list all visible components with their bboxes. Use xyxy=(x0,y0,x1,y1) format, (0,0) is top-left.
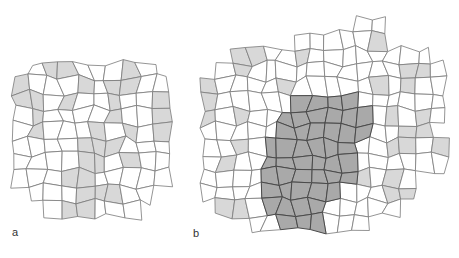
cell-dark xyxy=(296,214,312,229)
cell-white xyxy=(343,46,357,67)
cell-light xyxy=(385,106,399,127)
cell-light xyxy=(398,137,416,154)
cell-dark xyxy=(338,153,358,173)
cell-white xyxy=(431,95,445,109)
cell-light xyxy=(215,198,235,219)
cell-light xyxy=(152,108,172,124)
cell-white xyxy=(294,33,310,51)
cell-white xyxy=(430,76,447,96)
cell-light xyxy=(399,189,417,200)
cell-tissue-figure xyxy=(0,0,459,258)
cell-white xyxy=(233,170,252,187)
cell-light xyxy=(153,122,173,142)
cell-light xyxy=(62,201,78,220)
cell-white xyxy=(352,215,370,231)
cell-white xyxy=(43,183,62,201)
cell-dark xyxy=(338,143,358,155)
cell-white xyxy=(43,200,62,219)
cell-white xyxy=(215,170,234,187)
cell-light xyxy=(152,92,170,109)
cell-white xyxy=(419,47,430,64)
cell-white xyxy=(307,49,324,63)
cell-light xyxy=(400,78,415,94)
cell-white xyxy=(416,137,434,153)
cell-white xyxy=(137,105,153,127)
cell-dark xyxy=(293,155,313,169)
cell-white xyxy=(136,141,156,153)
panel-a-tissue xyxy=(11,60,173,221)
cell-white xyxy=(430,108,445,123)
cell-white xyxy=(399,46,420,65)
cell-white xyxy=(430,60,447,77)
cell-white xyxy=(45,151,62,171)
cell-white xyxy=(136,124,154,143)
panel-b-tissue xyxy=(200,16,450,234)
cell-dark xyxy=(292,169,312,182)
cell-white xyxy=(358,92,373,108)
cell-white xyxy=(306,61,325,76)
panel-b-label: b xyxy=(193,227,199,239)
cell-dark xyxy=(325,107,343,123)
cell-dark xyxy=(326,182,341,202)
cell-light xyxy=(95,153,105,173)
cell-dark xyxy=(340,172,358,185)
cell-white xyxy=(103,60,123,81)
cell-dark xyxy=(265,137,276,158)
cell-white xyxy=(310,33,324,50)
cell-white xyxy=(353,16,373,32)
panel-a-label: a xyxy=(12,226,18,238)
cell-white xyxy=(373,106,387,126)
cell-white xyxy=(373,95,390,107)
cell-light xyxy=(398,126,417,138)
